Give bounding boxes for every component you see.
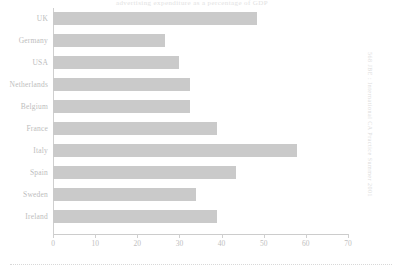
x-tick-label: 20 — [134, 239, 142, 248]
running-head-caption: 568 JBE : International CA Practice Summ… — [363, 52, 377, 202]
bar — [53, 144, 297, 157]
bar — [53, 34, 165, 47]
x-tick-label: 40 — [218, 239, 226, 248]
bar-row: Italy — [53, 140, 348, 162]
bar-row: Belgium — [53, 96, 348, 118]
chart-title-cropped: advertising expenditure as a percentage … — [84, 0, 300, 8]
category-label: Sweden — [23, 188, 48, 201]
x-axis-ticks: 010203040506070 — [53, 234, 349, 260]
x-tick-mark — [306, 234, 307, 238]
x-tick-label: 0 — [51, 239, 55, 248]
bar-row: Spain — [53, 162, 348, 184]
bar-rows: UKGermanyUSANetherlandsBelgiumFranceItal… — [53, 8, 348, 231]
bar-row: France — [53, 118, 348, 140]
bar-row: Sweden — [53, 184, 348, 206]
x-tick-mark — [348, 234, 349, 238]
bar-chart-figure: advertising expenditure as a percentage … — [0, 0, 401, 273]
category-label: Netherlands — [10, 78, 48, 91]
bar-row: UK — [53, 8, 348, 30]
category-label: Germany — [19, 34, 48, 47]
bar-row: Ireland — [53, 206, 348, 228]
bar — [53, 122, 217, 135]
bar-row: Netherlands — [53, 74, 348, 96]
x-tick-label: 60 — [302, 239, 310, 248]
category-label: USA — [32, 56, 48, 69]
x-tick-mark — [53, 234, 54, 238]
bar — [53, 188, 196, 201]
x-tick-mark — [95, 234, 96, 238]
bar-row: USA — [53, 52, 348, 74]
x-tick-label: 10 — [91, 239, 99, 248]
x-tick-mark — [179, 234, 180, 238]
category-label: UK — [37, 12, 48, 25]
x-tick-mark — [137, 234, 138, 238]
x-tick-mark — [222, 234, 223, 238]
x-tick-label: 70 — [344, 239, 352, 248]
bar-row: Germany — [53, 30, 348, 52]
category-label: Belgium — [21, 100, 48, 113]
footer-dotted-rule — [10, 264, 392, 266]
bar — [53, 56, 179, 69]
category-label: Ireland — [25, 210, 48, 223]
category-label: France — [26, 122, 48, 135]
bar — [53, 100, 190, 113]
x-tick-mark — [264, 234, 265, 238]
category-label: Spain — [30, 166, 48, 179]
plot-area: UKGermanyUSANetherlandsBelgiumFranceItal… — [53, 8, 348, 231]
category-label: Italy — [33, 144, 48, 157]
bar — [53, 210, 217, 223]
bar — [53, 12, 257, 25]
bar — [53, 78, 190, 91]
bar — [53, 166, 236, 179]
x-tick-label: 30 — [176, 239, 184, 248]
x-tick-label: 50 — [260, 239, 268, 248]
